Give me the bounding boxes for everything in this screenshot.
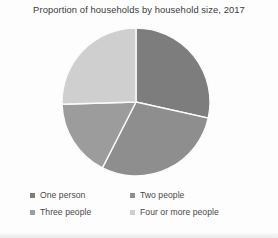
- legend-item-four-or-more-people[interactable]: Four or more people: [130, 207, 250, 217]
- legend-item-two-people[interactable]: Two people: [130, 190, 250, 200]
- legend-label: One person: [40, 190, 85, 200]
- legend-label: Two people: [140, 190, 184, 200]
- chart-legend: One person Two people Three people Four …: [30, 190, 250, 217]
- legend-swatch-icon: [130, 193, 135, 198]
- legend-swatch-icon: [30, 193, 35, 198]
- legend-item-three-people[interactable]: Three people: [30, 207, 130, 217]
- chart-title: Proportion of households by household si…: [0, 4, 278, 15]
- legend-item-one-person[interactable]: One person: [30, 190, 130, 200]
- legend-label: Four or more people: [140, 207, 219, 217]
- pie-slice-group: [62, 28, 210, 176]
- legend-swatch-icon: [30, 210, 35, 215]
- pie-chart-svg: [56, 22, 216, 182]
- legend-label: Three people: [40, 207, 91, 217]
- scan-edge-shadow: [0, 232, 278, 238]
- pie-slice[interactable]: [62, 28, 136, 104]
- legend-swatch-icon: [130, 210, 135, 215]
- pie-chart-figure: Proportion of households by household si…: [0, 0, 278, 238]
- pie-chart-plot-area: [56, 22, 216, 182]
